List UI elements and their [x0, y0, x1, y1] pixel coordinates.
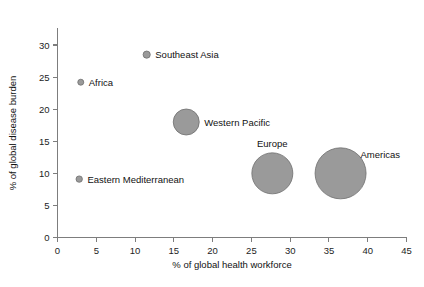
x-tick-label: 10	[130, 245, 141, 256]
data-point[interactable]: Eastern Mediterranean	[76, 174, 184, 185]
data-point-label: Western Pacific	[204, 117, 270, 128]
bubble-marker[interactable]	[252, 153, 293, 194]
y-tick-label: 20	[39, 104, 50, 115]
x-tick-label: 25	[246, 245, 257, 256]
y-axis: 051015202530 % of global disease burden	[7, 28, 58, 243]
data-point[interactable]: Western Pacific	[173, 109, 270, 135]
x-tick-label: 0	[55, 245, 60, 256]
x-tick-label: 30	[285, 245, 296, 256]
y-tick-label: 25	[39, 72, 50, 83]
x-tick-label: 35	[324, 245, 335, 256]
chart-canvas: 051015202530 % of global disease burden …	[0, 0, 424, 287]
x-tick-label: 5	[94, 245, 99, 256]
x-tick-label: 20	[207, 245, 218, 256]
y-tick-label: 0	[44, 232, 49, 243]
x-axis-title: % of global health workforce	[172, 259, 291, 270]
y-tick-label: 15	[39, 136, 50, 147]
bubble-chart: 051015202530 % of global disease burden …	[0, 0, 424, 287]
data-point[interactable]: Europe	[252, 138, 293, 194]
x-axis: 051015202530354045 % of global health wo…	[55, 238, 412, 271]
bubble-marker[interactable]	[143, 51, 150, 58]
y-axis-title: % of global disease burden	[7, 76, 18, 191]
data-points-layer: AfricaSoutheast AsiaEastern Mediterranea…	[76, 49, 400, 199]
data-point-label: Europe	[257, 138, 288, 149]
y-tick-label: 30	[39, 40, 50, 51]
data-point-label: Eastern Mediterranean	[87, 174, 184, 185]
bubble-marker[interactable]	[78, 79, 84, 85]
bubble-marker[interactable]	[173, 109, 199, 135]
data-point-label: Africa	[89, 77, 114, 88]
x-axis-ticks: 051015202530354045	[55, 238, 412, 256]
x-tick-label: 45	[401, 245, 412, 256]
data-point-label: Southeast Asia	[155, 49, 219, 60]
data-point[interactable]: Southeast Asia	[143, 49, 219, 60]
data-point[interactable]: Americas	[315, 148, 400, 199]
y-tick-label: 10	[39, 168, 50, 179]
y-axis-ticks: 051015202530	[39, 40, 58, 244]
bubble-marker[interactable]	[76, 176, 82, 182]
data-point-label: Americas	[360, 149, 400, 160]
bubble-marker[interactable]	[315, 148, 366, 199]
x-tick-label: 40	[362, 245, 373, 256]
data-point[interactable]: Africa	[78, 77, 114, 88]
y-tick-label: 5	[44, 200, 49, 211]
x-tick-label: 15	[169, 245, 180, 256]
